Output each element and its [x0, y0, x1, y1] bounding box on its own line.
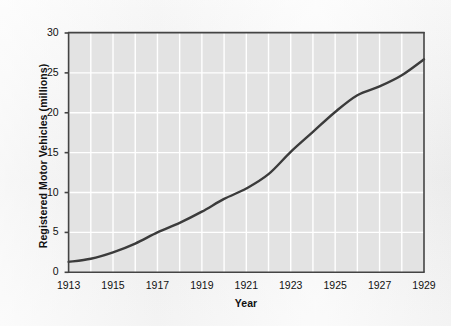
- chart-figure: 051015202530 191319151917191919211923192…: [0, 0, 451, 326]
- y-axis-title: Registered Motor Vehicles (millions): [37, 51, 49, 261]
- x-tick-label: 1913: [49, 279, 89, 291]
- x-tick-label: 1917: [137, 279, 177, 291]
- x-tick-label: 1927: [360, 279, 400, 291]
- x-tick-label: 1921: [226, 279, 266, 291]
- x-tick-label: 1915: [93, 279, 133, 291]
- x-tick-label: 1919: [182, 279, 222, 291]
- y-tick-label: 30: [33, 26, 59, 38]
- x-axis-title: Year: [68, 297, 424, 309]
- x-tick-label: 1923: [271, 279, 311, 291]
- line-chart-plot: [0, 0, 451, 326]
- x-tick-label: 1925: [315, 279, 355, 291]
- x-tick-label: 1929: [404, 279, 444, 291]
- y-tick-label: 0: [33, 265, 59, 277]
